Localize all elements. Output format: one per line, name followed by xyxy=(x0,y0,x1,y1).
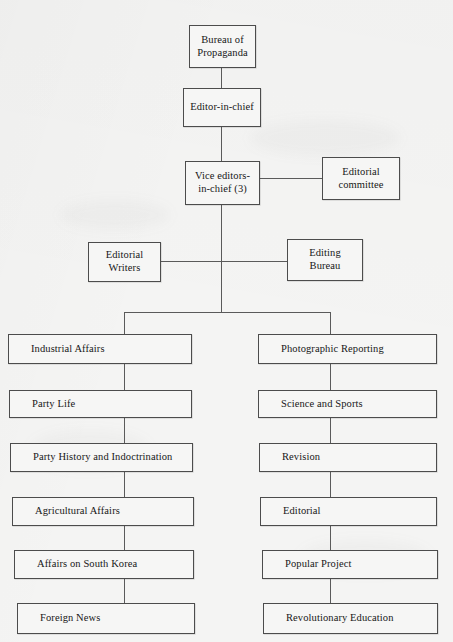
node-label: Bureau of Propaganda xyxy=(197,34,248,60)
connector-right-spine-3 xyxy=(330,472,331,497)
node-editorial[interactable]: Editorial xyxy=(260,497,437,526)
node-label: Science and Sports xyxy=(281,398,363,411)
node-editing-bureau[interactable]: Editing Bureau xyxy=(287,239,363,281)
node-revision[interactable]: Revision xyxy=(259,443,437,472)
node-industrial-affairs[interactable]: Industrial Affairs xyxy=(8,334,192,364)
connector-editor-to-vice xyxy=(221,127,222,161)
node-label: Party Life xyxy=(32,398,75,411)
connector-right-spine-1 xyxy=(330,364,331,390)
connector-vice-to-committee xyxy=(259,178,322,179)
node-foreign-news[interactable]: Foreign News xyxy=(17,603,195,634)
connector-right-spine-5 xyxy=(330,579,331,603)
node-bureau-of-propaganda[interactable]: Bureau of Propaganda xyxy=(189,25,256,68)
node-label: Revolutionary Education xyxy=(286,612,394,625)
node-editor-in-chief[interactable]: Editor-in-chief xyxy=(183,88,261,127)
node-revolutionary-education[interactable]: Revolutionary Education xyxy=(263,603,438,634)
node-label: Editing Bureau xyxy=(309,247,341,273)
node-party-life[interactable]: Party Life xyxy=(9,390,192,418)
node-label: Vice editors- in-chief (3) xyxy=(195,170,250,196)
node-photographic-reporting[interactable]: Photographic Reporting xyxy=(258,334,437,364)
node-popular-project[interactable]: Popular Project xyxy=(262,550,438,579)
node-science-and-sports[interactable]: Science and Sports xyxy=(258,390,437,418)
node-label: Party History and Indoctrination xyxy=(33,451,172,464)
connector-right-spine-4 xyxy=(330,526,331,550)
connector-vice-trunk xyxy=(221,205,222,261)
connector-trunk-to-bus xyxy=(221,261,222,312)
node-party-history-and-indoctrination[interactable]: Party History and Indoctrination xyxy=(10,443,193,472)
connector-right-spine-2 xyxy=(330,418,331,443)
paper-blotch xyxy=(250,120,400,156)
node-agricultural-affairs[interactable]: Agricultural Affairs xyxy=(12,497,194,526)
node-editorial-committee[interactable]: Editorial committee xyxy=(322,157,400,200)
node-label: Affairs on South Korea xyxy=(37,558,137,571)
connector-bureau-to-editor xyxy=(221,68,222,88)
node-label: Foreign News xyxy=(40,612,100,625)
connector-left-column-drop xyxy=(124,312,125,334)
node-label: Revision xyxy=(282,451,320,464)
node-label: Editorial xyxy=(283,505,321,518)
connector-department-bus xyxy=(124,312,331,313)
node-editorial-writers[interactable]: Editorial Writers xyxy=(88,242,161,282)
node-label: Photographic Reporting xyxy=(281,343,384,356)
node-affairs-on-south-korea[interactable]: Affairs on South Korea xyxy=(14,550,194,579)
node-label: Popular Project xyxy=(285,558,352,571)
connector-writers-to-bureau xyxy=(160,261,287,262)
node-label: Industrial Affairs xyxy=(31,343,105,356)
node-label: Agricultural Affairs xyxy=(35,505,120,518)
connector-left-spine-2 xyxy=(124,418,125,443)
connector-left-spine-5 xyxy=(124,579,125,603)
org-chart-canvas: Bureau of Propaganda Editor-in-chief Vic… xyxy=(0,0,453,642)
node-label: Editor-in-chief xyxy=(190,101,254,114)
connector-left-spine-4 xyxy=(124,526,125,550)
paper-blotch xyxy=(60,200,170,230)
connector-left-spine-1 xyxy=(124,364,125,390)
node-vice-editors-in-chief[interactable]: Vice editors- in-chief (3) xyxy=(185,161,260,205)
node-label: Editorial Writers xyxy=(106,249,144,275)
connector-right-column-drop xyxy=(330,312,331,334)
node-label: Editorial committee xyxy=(338,166,383,192)
connector-left-spine-3 xyxy=(124,472,125,497)
